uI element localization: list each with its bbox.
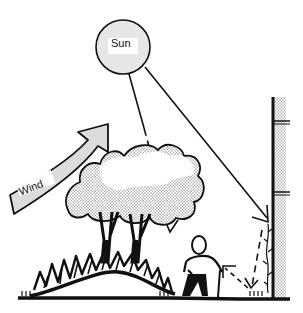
wall-vine	[263, 224, 272, 293]
sun	[96, 20, 150, 74]
reflected-ray	[223, 230, 262, 288]
microclimate-diagram	[0, 0, 303, 313]
wall	[273, 97, 290, 300]
person-with-cane	[182, 236, 222, 297]
ground	[18, 291, 290, 299]
tree	[66, 145, 204, 262]
